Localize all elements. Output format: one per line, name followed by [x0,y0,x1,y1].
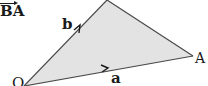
vector-ba-label: BA [0,4,24,19]
vector-b-label: b [62,17,73,32]
vector-arrow-icon [0,3,16,4]
vector-a-label: a [111,71,121,86]
vector-triangle-diagram: BA b a A O [0,0,208,86]
point-o-label: O [12,76,24,86]
point-a-label: A [195,51,205,65]
triangle-fill [24,0,193,86]
triangle-oab [0,0,208,86]
